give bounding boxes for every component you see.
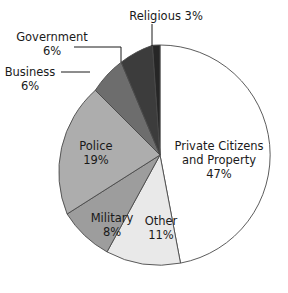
slice-label-other: Other 11% [145,214,178,242]
business-label-percent: 6% [21,79,39,93]
callout-label-business: Business 6% [5,65,56,93]
callout-label-religious: Religious 3% [129,9,203,23]
business-label-line1: Business [5,65,56,79]
military-label-line1: Military [91,211,134,225]
religious-label-line1: Religious 3% [129,9,203,23]
callout-label-government: Government 6% [16,30,88,58]
private-citizens-label-line2: and Property [182,153,256,167]
government-label-percent: 6% [43,44,61,58]
police-label-percent: 19% [83,153,109,167]
government-label-line1: Government [16,30,88,44]
slice-label-police: Police 19% [79,139,112,167]
private-citizens-label-percent: 47% [206,167,232,181]
pie-chart-figure: Private Citizens and Property 47% Other … [0,0,288,293]
military-label-percent: 8% [103,225,121,239]
police-label-line1: Police [79,139,112,153]
private-citizens-label-line1: Private Citizens [174,139,263,153]
other-label-line1: Other [145,214,178,228]
pie-chart-svg: Private Citizens and Property 47% Other … [0,0,288,293]
other-label-percent: 11% [148,228,174,242]
leader-line-government [74,47,121,62]
